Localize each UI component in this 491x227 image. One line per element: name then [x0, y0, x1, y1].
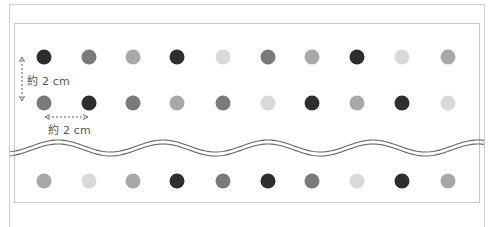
- dot-pale: [395, 50, 410, 65]
- dot-mid: [216, 174, 231, 189]
- vertical-spacing-arrow: [20, 57, 25, 101]
- dot-light: [350, 96, 365, 111]
- break-line-wave: [10, 140, 484, 156]
- dot-dark: [305, 96, 320, 111]
- dot-grid: [37, 50, 456, 189]
- dot-light: [126, 50, 141, 65]
- dot-light: [126, 174, 141, 189]
- horizontal-spacing-label: 約 2 cm: [48, 121, 91, 137]
- dot-dark: [261, 174, 276, 189]
- dot-light: [305, 50, 320, 65]
- dot-dark: [82, 96, 97, 111]
- dot-pale: [350, 174, 365, 189]
- dot-light: [170, 96, 185, 111]
- dot-mid: [216, 96, 231, 111]
- dot-dark: [170, 174, 185, 189]
- dot-dark: [395, 96, 410, 111]
- dot-dark: [350, 50, 365, 65]
- dot-light: [441, 174, 456, 189]
- dot-dark: [37, 50, 52, 65]
- dot-mid: [82, 50, 97, 65]
- dot-dark: [395, 174, 410, 189]
- dot-pattern-diagram: [0, 0, 491, 227]
- dot-mid: [261, 50, 276, 65]
- horizontal-spacing-arrow: [45, 115, 88, 120]
- dot-mid: [305, 174, 320, 189]
- dot-pale: [216, 50, 231, 65]
- dot-pale: [441, 96, 456, 111]
- dot-light: [441, 50, 456, 65]
- dot-mid: [126, 96, 141, 111]
- dot-dark: [170, 50, 185, 65]
- dot-pale: [261, 96, 276, 111]
- dot-mid: [37, 96, 52, 111]
- dot-pale: [82, 174, 97, 189]
- dot-light: [37, 174, 52, 189]
- vertical-spacing-label: 約 2 cm: [27, 72, 70, 88]
